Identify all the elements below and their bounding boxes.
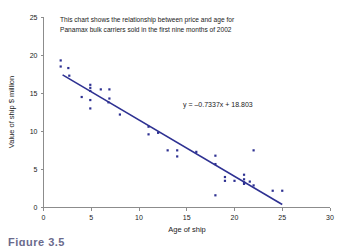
y-tick-label: 25 [30, 14, 38, 21]
data-point [89, 107, 91, 109]
data-point [60, 65, 62, 67]
x-tick-label: 15 [183, 214, 191, 221]
data-point [214, 163, 216, 165]
y-tick-label: 15 [30, 90, 38, 97]
x-tick-label: 30 [326, 214, 334, 221]
data-point [253, 184, 255, 186]
chart-axes [44, 17, 331, 208]
data-point [224, 176, 226, 178]
y-axis-ticks: 0510152025 [30, 14, 44, 212]
scatter-chart: 0510152025 051015202530 Value of ship $ … [0, 0, 343, 246]
data-point [272, 190, 274, 192]
y-tick-label: 0 [34, 204, 38, 211]
x-axis-ticks: 051015202530 [42, 208, 334, 221]
data-point [108, 88, 110, 90]
data-point [243, 183, 245, 185]
x-tick-label: 0 [42, 214, 46, 221]
data-point [176, 155, 178, 157]
x-tick-label: 25 [278, 214, 286, 221]
data-point [243, 174, 245, 176]
data-point [157, 132, 159, 134]
data-point [81, 96, 83, 98]
x-tick-label: 20 [231, 214, 239, 221]
y-tick-label: 10 [30, 128, 38, 135]
data-point [224, 180, 226, 182]
y-axis-title: Value of ship $ million [7, 76, 16, 148]
data-point [281, 190, 283, 192]
data-point [119, 113, 121, 115]
data-point [176, 149, 178, 151]
x-tick-label: 5 [89, 214, 93, 221]
x-tick-label: 10 [135, 214, 143, 221]
y-tick-label: 20 [30, 52, 38, 59]
data-point [195, 151, 197, 153]
data-point [60, 59, 62, 61]
data-point [233, 180, 235, 182]
x-axis-title: Age of ship [168, 225, 206, 234]
figure-caption: Figure 3.5 [8, 237, 65, 246]
data-point [147, 126, 149, 128]
data-point [68, 75, 70, 77]
data-point [89, 90, 91, 92]
data-point [167, 149, 169, 151]
regression-equation-label: y = –0.7337x + 18.803 [183, 101, 253, 109]
figure-container: 0510152025 051015202530 Value of ship $ … [0, 0, 343, 246]
chart-annotation-line-2: Panamax bulk carriers sold in the first … [60, 26, 232, 33]
data-point [214, 194, 216, 196]
data-point [107, 101, 109, 103]
data-point [89, 87, 91, 89]
y-tick-label: 5 [34, 166, 38, 173]
data-point [67, 67, 69, 69]
data-point [249, 180, 251, 182]
chart-annotation-line-1: This chart shows the relationship betwee… [60, 16, 235, 24]
regression-trendline [63, 75, 283, 205]
data-point [89, 99, 91, 101]
data-points-group [60, 59, 284, 196]
data-point [253, 149, 255, 151]
data-point [89, 84, 91, 86]
data-point [100, 88, 102, 90]
data-point [214, 155, 216, 157]
data-point [243, 178, 245, 180]
data-point [108, 97, 110, 99]
data-point [147, 133, 149, 135]
